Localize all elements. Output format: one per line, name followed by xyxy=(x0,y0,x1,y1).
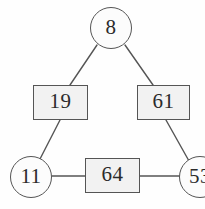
graph-node-circle-11[interactable]: 11 xyxy=(10,156,52,198)
graph-diagram: 8 19 61 11 64 53 xyxy=(0,0,205,209)
graph-node-circle-8[interactable]: 8 xyxy=(90,7,132,49)
graph-node-rect-19[interactable]: 19 xyxy=(33,85,88,120)
node-label: 8 xyxy=(106,17,117,38)
graph-edge-n19-n11 xyxy=(40,120,60,159)
node-label: 11 xyxy=(20,166,41,187)
graph-edge-n8-n19 xyxy=(70,45,97,85)
graph-node-rect-61[interactable]: 61 xyxy=(137,85,190,120)
graph-edge-n61-n53 xyxy=(166,120,189,161)
graph-node-rect-64[interactable]: 64 xyxy=(85,158,140,193)
node-label: 19 xyxy=(50,91,72,112)
graph-edge-n8-n61 xyxy=(125,45,153,85)
node-label: 64 xyxy=(102,164,124,185)
node-label: 61 xyxy=(153,91,175,112)
node-label: 53 xyxy=(189,166,205,187)
